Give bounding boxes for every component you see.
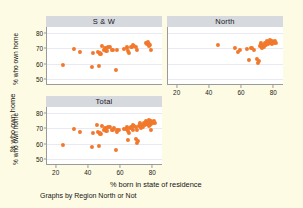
data-point bbox=[135, 48, 139, 52]
y-axis-total: 50607080 bbox=[24, 107, 46, 165]
plot-area-north bbox=[167, 27, 283, 85]
gridline bbox=[47, 79, 162, 80]
panel-north: North 20406080 bbox=[167, 16, 283, 85]
panel-s-and-w: S & W 50607080 % who own home bbox=[46, 16, 162, 85]
data-point bbox=[148, 43, 152, 47]
gridline bbox=[47, 159, 162, 160]
chart-figure: % who own home S & W 50607080 % who own … bbox=[0, 0, 303, 208]
data-point bbox=[78, 130, 82, 134]
x-tick-label: 80 bbox=[270, 85, 277, 96]
y-tick-label: 60 bbox=[36, 60, 46, 67]
gridline bbox=[47, 113, 162, 114]
data-point bbox=[114, 148, 118, 152]
y-axis-label-s-and-w: % who own home bbox=[12, 33, 19, 85]
y-axis-label-total: % who own home bbox=[12, 113, 19, 165]
x-tick-label: 40 bbox=[205, 85, 212, 96]
data-point bbox=[252, 48, 256, 52]
panel-title-total: Total bbox=[46, 96, 162, 107]
data-point bbox=[245, 47, 249, 51]
gridline bbox=[168, 48, 283, 49]
scatter-points-s-and-w bbox=[47, 27, 162, 84]
data-point bbox=[90, 145, 94, 149]
data-point bbox=[116, 128, 120, 132]
data-point bbox=[247, 58, 251, 62]
plot-area-total bbox=[46, 107, 162, 165]
y-axis-s-and-w: 50607080 bbox=[24, 27, 46, 85]
data-point bbox=[97, 64, 101, 68]
data-point bbox=[90, 65, 94, 69]
y-tick-label: 70 bbox=[36, 45, 46, 52]
data-point bbox=[127, 51, 131, 55]
data-point bbox=[126, 138, 130, 142]
data-point bbox=[114, 68, 118, 72]
data-point bbox=[72, 47, 76, 51]
y-tick-label: 70 bbox=[36, 125, 46, 132]
panel-title-s-and-w: S & W bbox=[46, 16, 162, 27]
y-tick-label: 50 bbox=[36, 155, 46, 162]
x-axis-total: 20406080 bbox=[46, 165, 162, 177]
data-point bbox=[98, 52, 102, 56]
x-axis-north: 20406080 bbox=[167, 85, 283, 97]
data-point bbox=[136, 139, 140, 143]
data-point bbox=[61, 143, 65, 147]
gridline bbox=[168, 79, 283, 80]
x-tick-label: 80 bbox=[149, 165, 156, 176]
data-point bbox=[78, 50, 82, 54]
data-point bbox=[257, 59, 261, 63]
data-point bbox=[127, 131, 131, 135]
data-point bbox=[115, 48, 119, 52]
data-point bbox=[97, 144, 101, 148]
data-point bbox=[149, 128, 153, 132]
data-point bbox=[91, 131, 95, 135]
x-tick-label: 20 bbox=[52, 165, 59, 176]
data-point bbox=[216, 43, 220, 47]
x-tick-label: 60 bbox=[238, 85, 245, 96]
y-tick-label: 50 bbox=[36, 75, 46, 82]
gridline bbox=[47, 33, 162, 34]
data-point bbox=[61, 63, 65, 67]
gridline bbox=[168, 33, 283, 34]
data-point bbox=[274, 41, 278, 45]
y-tick-label: 60 bbox=[36, 140, 46, 147]
plot-area-s-and-w bbox=[46, 27, 162, 85]
x-axis-title: % born in state of residence bbox=[110, 180, 202, 189]
data-point bbox=[149, 48, 153, 52]
data-point bbox=[72, 127, 76, 131]
panel-total: Total 50607080 20406080 % who own home bbox=[46, 96, 162, 165]
x-tick-label: 60 bbox=[117, 165, 124, 176]
x-tick-label: 20 bbox=[173, 85, 180, 96]
data-point bbox=[91, 51, 95, 55]
y-tick-label: 80 bbox=[36, 30, 46, 37]
data-point bbox=[98, 132, 102, 136]
data-point bbox=[95, 123, 99, 127]
gridline bbox=[168, 64, 283, 65]
chart-note: Graphs by Region North or Not bbox=[40, 192, 137, 199]
panel-title-north: North bbox=[167, 16, 283, 27]
y-tick-label: 80 bbox=[36, 110, 46, 117]
data-point bbox=[237, 48, 241, 52]
scatter-points-total bbox=[47, 107, 162, 164]
scatter-points-north bbox=[168, 27, 283, 84]
data-point bbox=[153, 121, 157, 125]
x-tick-label: 40 bbox=[84, 165, 91, 176]
